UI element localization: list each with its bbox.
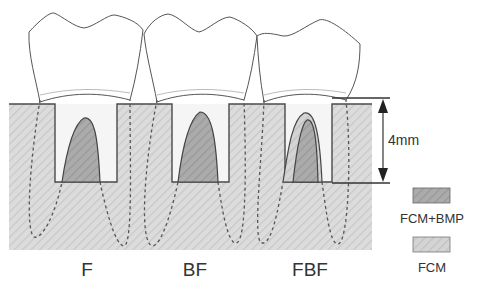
legend-swatch-fcm [413,237,450,252]
legend-swatch-fcm-bmp [413,188,450,203]
legend-label-fcm: FCM [418,260,446,275]
tooth-crown-1 [29,13,143,102]
dental-diagram: 4mm FCM+BMP FCM F BF FBF [0,0,482,285]
arrow-up-icon [378,99,388,113]
group-label-fbf: FBF [292,259,328,280]
tooth-crown-2 [144,14,257,102]
arrow-down-icon [378,168,388,182]
group-label-f: F [81,259,93,280]
group-label-bf: BF [183,259,207,280]
dimension-label: 4mm [388,132,419,148]
legend-label-fcm-bmp: FCM+BMP [400,211,464,226]
